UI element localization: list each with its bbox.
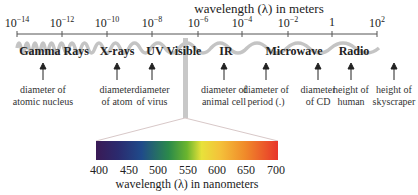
tick-label: 10−2 [278,15,299,31]
nm-tick: 550 [179,163,197,178]
desc-virus: diameterof virus [135,84,170,108]
band-ir: IR [219,44,232,59]
desc-animal-cell: diameter ofanimal cell [201,84,247,108]
nm-tick: 700 [267,163,285,178]
desc-atom: diameterof atom [100,84,135,108]
tick-label: 1 [329,15,335,30]
nm-tick: 400 [90,163,108,178]
nm-tick: 500 [149,163,167,178]
tick-label: 10−6 [188,15,209,31]
arrows [40,63,397,80]
nm-tick: 650 [237,163,255,178]
band-visible: Visible [167,44,202,59]
tick-label: 102 [369,15,385,31]
band-microwave: Microwave [265,44,322,59]
desc-skyscraper: height ofskyscraper [373,84,416,108]
tick-label: 10−4 [232,15,253,31]
band-gamma-rays: Gamma Rays [19,44,89,59]
tick-label: 10−8 [142,15,163,31]
band-radio: Radio [339,44,370,59]
desc-period: diameter ofperiod (.) [243,84,289,108]
nm-tick: 600 [208,163,226,178]
tick-label: 10−14 [5,15,30,31]
tick-label: 10−12 [50,15,75,31]
nm-axis-title: wavelength (λ) in nanometers [116,177,259,192]
tick-label: 10−10 [95,15,120,31]
fan-line-right [185,118,278,141]
band-uv: UV [146,44,163,59]
visible-spectrum-bar [96,141,278,160]
band-x-rays: X-rays [100,44,135,59]
desc-human: height ofhuman [333,84,369,108]
desc-atomic-nucleus: diameter ofatomic nucleus [13,84,73,108]
desc-cd: diameterof CD [301,84,336,108]
nm-tick: 450 [120,163,138,178]
fan-line-left [96,118,185,141]
